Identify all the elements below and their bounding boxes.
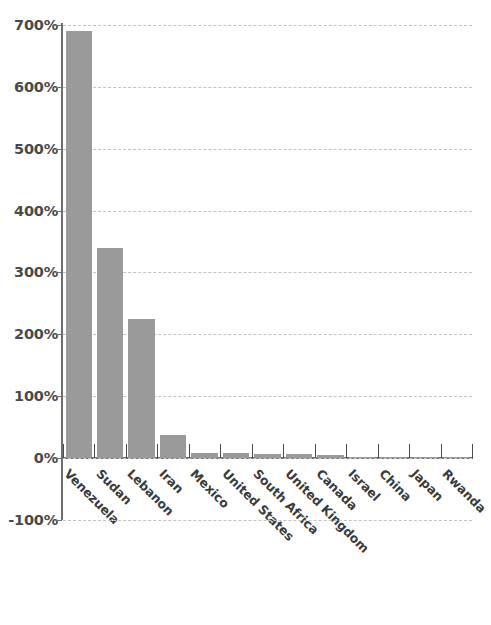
y-axis-tick-mark	[56, 396, 62, 397]
gridline	[63, 149, 472, 150]
x-axis-tick-mark	[409, 444, 410, 458]
x-axis-tick-mark	[157, 444, 158, 458]
x-axis-tick-mark	[189, 444, 190, 458]
bar	[317, 455, 343, 458]
y-axis-tick-label: 200%	[0, 326, 58, 342]
bar	[380, 457, 406, 458]
bar	[223, 453, 249, 458]
y-axis-tick-label: 500%	[0, 141, 58, 157]
x-axis-tick-label: Japan	[408, 466, 446, 504]
gridline	[63, 211, 472, 212]
bar	[412, 457, 438, 458]
y-axis-tick-label: 600%	[0, 79, 58, 95]
x-axis-tick-mark	[441, 444, 442, 458]
gridline	[63, 25, 472, 26]
gridline	[63, 520, 472, 521]
y-axis-tick-label: 0%	[0, 450, 58, 466]
x-axis-tick-mark	[315, 444, 316, 458]
y-axis-tick-mark	[56, 520, 62, 521]
plot-area	[63, 25, 472, 458]
y-axis-tick-label: 400%	[0, 203, 58, 219]
x-axis-tick-mark	[346, 444, 347, 458]
y-axis-tick-mark	[56, 334, 62, 335]
x-axis-tick-label: Rwanda	[439, 466, 489, 516]
y-axis-tick-mark	[56, 87, 62, 88]
x-axis-tick-mark	[472, 444, 473, 458]
x-axis-tick-mark	[63, 444, 64, 458]
bar-chart: 700%600%500%400%300%200%100%0%-100% Vene…	[0, 0, 491, 625]
bar	[128, 319, 154, 458]
gridline	[63, 458, 472, 459]
x-axis-tick-mark	[252, 444, 253, 458]
y-axis-tick-label: 100%	[0, 388, 58, 404]
x-axis-tick-mark	[220, 444, 221, 458]
bar	[191, 453, 217, 458]
bar	[443, 457, 469, 458]
y-axis-tick-label: 700%	[0, 17, 58, 33]
gridline	[63, 334, 472, 335]
bar	[160, 435, 186, 458]
y-axis-tick-mark	[56, 211, 62, 212]
y-axis-tick-mark	[56, 25, 62, 26]
bar	[254, 454, 280, 458]
x-axis-tick-labels: VenezuelaSudanLebanonIranMexicoUnited St…	[0, 466, 491, 625]
y-axis-tick-mark	[56, 149, 62, 150]
x-axis-tick-mark	[378, 444, 379, 458]
y-axis-tick-mark	[56, 272, 62, 273]
bar	[286, 454, 312, 458]
x-axis-tick-label: China	[376, 466, 414, 504]
x-axis-tick-mark	[94, 444, 95, 458]
y-axis-tick-mark	[56, 458, 62, 459]
gridline	[63, 87, 472, 88]
x-axis-tick-mark	[283, 444, 284, 458]
y-axis-tick-label: 300%	[0, 264, 58, 280]
x-axis-tick-mark	[126, 444, 127, 458]
bar	[66, 31, 92, 458]
gridline	[63, 272, 472, 273]
bar	[97, 248, 123, 458]
gridline	[63, 396, 472, 397]
bar	[349, 457, 375, 458]
